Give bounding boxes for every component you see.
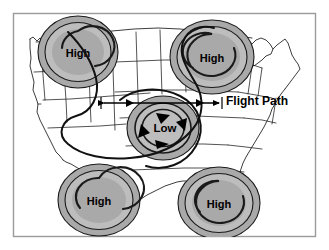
high-northeast-label: High [200,52,225,64]
weather-map-svg: High High High [0,0,329,250]
pressure-system-high-southeast: High [178,167,260,239]
pressure-system-high-northwest: High [38,16,118,88]
high-southwest-label: High [87,195,112,207]
weather-map-figure: High High High [0,0,329,250]
low-center-label: Low [154,122,177,134]
high-southeast-label: High [207,198,232,210]
flight-path-label: Flight Path [226,94,288,108]
